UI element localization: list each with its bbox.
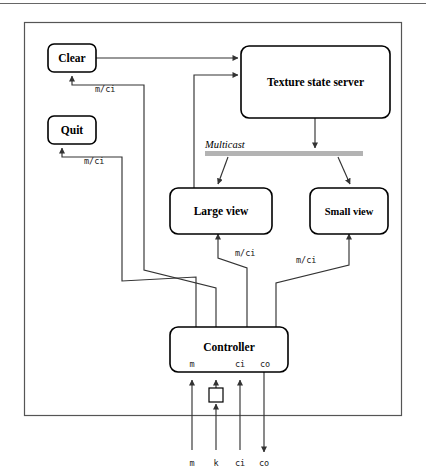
- architecture-diagram: Clear Quit Texture state server Multicas…: [0, 0, 426, 475]
- node-clear[interactable]: Clear: [48, 44, 96, 72]
- controller-port-m: m: [189, 359, 194, 369]
- mouse-device-icon: [209, 388, 223, 402]
- external-port-co: co: [259, 458, 269, 468]
- edge-multicast-to-large-view: [218, 157, 228, 184]
- label-quit-mci: m/ci: [84, 156, 104, 166]
- controller-label: Controller: [203, 341, 255, 353]
- large-view-label: Large view: [194, 205, 249, 218]
- small-view-label: Small view: [325, 206, 374, 217]
- edge-largeview-to-texture-state-server: [194, 75, 238, 189]
- node-controller[interactable]: Controller m ci co: [170, 327, 288, 372]
- label-clear-mci: m/ci: [95, 84, 115, 94]
- clear-label: Clear: [58, 52, 85, 64]
- controller-port-ci: ci: [235, 359, 245, 369]
- quit-label: Quit: [61, 124, 84, 136]
- edge-multicast-to-small-view: [338, 157, 350, 184]
- external-port-k: k: [213, 458, 218, 468]
- node-small-view[interactable]: Small view: [310, 188, 388, 234]
- label-large-view-mci: m/ci: [235, 248, 255, 258]
- node-large-view[interactable]: Large view: [170, 188, 272, 234]
- multicast-label: Multicast: [204, 139, 246, 150]
- node-texture-state-server[interactable]: Texture state server: [241, 46, 390, 118]
- controller-port-co: co: [260, 359, 270, 369]
- node-quit[interactable]: Quit: [48, 116, 96, 144]
- label-small-view-mci: m/ci: [296, 255, 316, 265]
- edge-controller-to-quit: [62, 148, 196, 327]
- texture-state-server-label: Texture state server: [267, 76, 364, 88]
- external-port-ci: ci: [235, 458, 245, 468]
- edge-controller-to-small-view: [276, 234, 349, 327]
- external-port-m: m: [189, 458, 194, 468]
